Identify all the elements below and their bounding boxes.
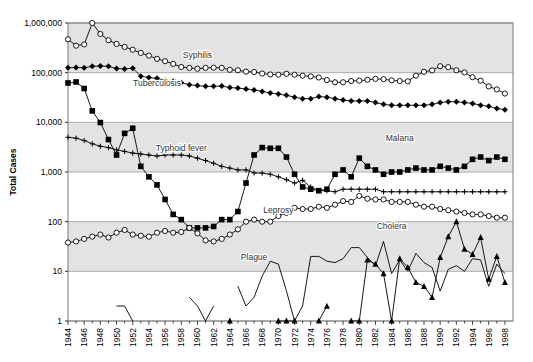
marker-38 [372,100,378,106]
marker-40 [389,78,394,83]
marker-13 [171,61,176,66]
marker-28 [292,72,297,77]
marker-31 [316,188,322,194]
marker-43 [413,102,419,108]
y-axis-title: Total Cases [8,148,18,195]
marker-7 [122,131,128,137]
marker-30 [308,74,313,79]
marker-22 [243,69,248,74]
marker-43 [413,279,419,285]
chart-canvas: 1101001,00010,000100,0001,000,000Total C… [0,0,533,362]
marker-16 [194,83,200,89]
marker-36 [357,78,362,83]
marker-6 [114,230,119,235]
marker-13 [171,230,176,235]
marker-47 [445,165,451,171]
marker-52 [486,213,491,218]
marker-20 [227,217,233,223]
x-tick-label-1948: 1948 [95,328,105,347]
marker-41 [397,78,402,83]
y-tick-label-5: 100,000 [31,68,62,78]
marker-36 [357,193,362,198]
marker-30 [308,186,314,192]
marker-27 [283,92,289,98]
marker-22 [243,86,249,92]
marker-54 [502,107,508,113]
marker-33 [332,80,337,85]
marker-54 [502,279,508,285]
marker-37 [365,164,371,170]
marker-16 [195,66,200,71]
y-tick-label-6: 1,000,000 [24,18,62,28]
marker-4 [98,120,104,126]
marker-0 [65,80,71,86]
marker-25 [267,90,273,96]
marker-37 [365,77,370,82]
marker-54 [502,215,507,220]
marker-15 [186,82,192,88]
marker-9 [138,50,143,55]
x-tick-label-1968: 1968 [257,328,267,347]
x-tick-label-1974: 1974 [306,328,316,347]
marker-14 [178,217,184,223]
marker-50 [470,75,475,80]
marker-3 [90,20,95,25]
marker-54 [502,157,508,163]
marker-9 [138,164,144,170]
marker-43 [413,73,418,78]
marker-37 [364,98,370,104]
marker-52 [486,158,492,164]
marker-41 [397,169,403,175]
marker-19 [219,217,225,223]
marker-35 [348,98,354,104]
marker-32 [324,94,330,100]
marker-51 [478,212,483,217]
marker-18 [211,239,216,244]
x-tick-label-1980: 1980 [354,328,364,347]
marker-21 [235,227,240,232]
marker-36 [356,155,362,161]
marker-48 [454,209,459,214]
marker-19 [219,65,224,70]
marker-41 [397,102,403,108]
marker-3 [89,108,95,114]
marker-31 [316,75,321,80]
marker-1 [73,79,79,85]
marker-48 [454,68,459,73]
marker-5 [106,137,112,143]
marker-24 [260,71,265,76]
marker-51 [478,78,483,83]
marker-16 [195,225,201,231]
marker-20 [227,67,232,72]
marker-21 [235,209,241,215]
marker-11 [154,56,159,61]
series-label-syphilis: Syphilis [183,50,212,60]
marker-42 [405,167,411,173]
x-tick-label-1998: 1998 [500,328,510,347]
marker-37 [365,196,370,201]
marker-44 [421,102,427,108]
x-tick-label-1962: 1962 [209,328,219,347]
marker-23 [251,69,256,74]
marker-5 [106,38,111,43]
marker-17 [203,83,209,89]
marker-38 [373,167,379,173]
marker-48 [453,99,459,105]
marker-38 [373,76,378,81]
marker-33 [332,171,338,177]
marker-45 [429,101,435,107]
marker-54 [502,91,507,96]
marker-30 [308,206,313,211]
marker-44 [421,204,426,209]
marker-40 [389,169,395,175]
y-tick-label-3: 1,000 [41,167,63,177]
marker-20 [227,85,233,91]
marker-44 [421,283,427,289]
marker-17 [203,225,209,231]
marker-29 [300,184,306,190]
marker-33 [332,96,338,102]
x-tick-label-1996: 1996 [484,328,494,347]
marker-26 [276,146,282,152]
marker-5 [106,235,111,240]
x-tick-label-1950: 1950 [112,328,122,347]
